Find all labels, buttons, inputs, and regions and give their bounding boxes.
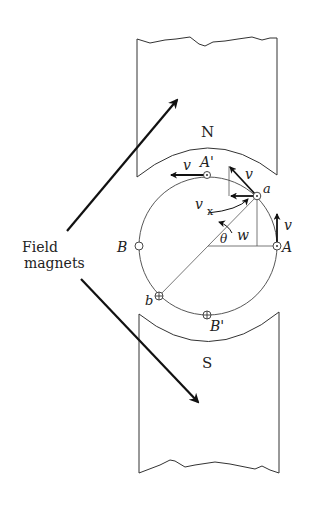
field-label-line2: magnets <box>24 255 85 271</box>
label-b: b <box>145 293 153 308</box>
generator-diagram: N S Field magnets A' a A B b B' v v v v … <box>0 0 312 505</box>
conductor-B <box>135 242 143 250</box>
field-label-line1: Field <box>22 239 58 255</box>
conductor-b <box>155 292 163 300</box>
label-v-A: v <box>284 217 292 233</box>
south-label: S <box>202 354 212 372</box>
label-vx: v <box>195 196 203 212</box>
label-omega: w <box>237 227 249 243</box>
label-A: A <box>280 239 292 255</box>
label-a: a <box>263 181 271 196</box>
field-arrow-north <box>67 100 177 231</box>
south-magnet <box>139 312 279 473</box>
conductor-a-prime <box>204 172 211 179</box>
label-v-top: v <box>183 157 191 173</box>
label-A-prime: A' <box>198 154 214 170</box>
label-B: B <box>116 239 127 255</box>
conductor-a <box>253 192 261 200</box>
label-theta: θ <box>220 232 228 246</box>
label-v-a: v <box>245 166 253 182</box>
label-vx-sub: x <box>207 205 214 218</box>
conductor-A <box>273 242 281 250</box>
north-label: N <box>201 123 214 141</box>
label-B-prime: B' <box>209 318 224 334</box>
